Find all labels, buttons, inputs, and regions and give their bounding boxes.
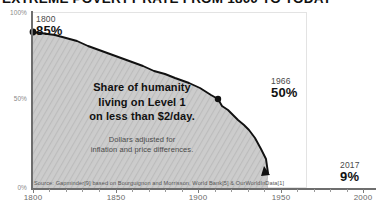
chart-annotation-main: Share of humanity living on Level 1 on l… xyxy=(52,80,232,124)
callout-1800-value: 85% xyxy=(36,24,63,38)
x-tick-minor xyxy=(149,189,150,192)
x-tick-label-1950: 1950 xyxy=(272,193,291,202)
callout-1800: 1800 85% xyxy=(36,14,63,38)
annotation-sub-line-1: Dollars adjusted for xyxy=(62,135,222,145)
y-tick-label-0: 0% xyxy=(3,184,27,191)
x-tick-minor xyxy=(347,189,348,192)
x-tick-minor xyxy=(66,189,67,192)
x-tick-minor xyxy=(49,189,50,192)
x-tick-minor xyxy=(215,189,216,192)
x-tick-minor xyxy=(132,189,133,192)
source-note: Source: Gapminder[9] based on Bourguigno… xyxy=(34,180,284,186)
y-tick-label-50: 50% xyxy=(3,95,27,102)
x-tick-label-1900: 1900 xyxy=(189,193,208,202)
x-tick-minor xyxy=(182,189,183,192)
annotation-line-2: living on Level 1 xyxy=(52,95,232,110)
x-tick-minor xyxy=(297,189,298,192)
x-tick-label-2000: 2000 xyxy=(354,193,373,202)
x-tick-label-1800: 1800 xyxy=(24,193,43,202)
x-tick-minor xyxy=(330,189,331,192)
callout-2017: 2017 9% xyxy=(340,160,360,184)
x-tick-minor xyxy=(99,189,100,192)
annotation-line-3: on less than $2/day. xyxy=(52,109,232,124)
callout-1966-value: 50% xyxy=(271,86,298,100)
chart-root: EXTREME POVERTY RATE FROM 1800 TO TODAY … xyxy=(0,0,378,211)
callout-2017-value: 9% xyxy=(340,170,360,184)
chart-annotation-sub: Dollars adjusted for inflation and price… xyxy=(62,135,222,155)
x-tick-minor xyxy=(231,189,232,192)
x-tick-minor xyxy=(82,189,83,192)
annotation-line-1: Share of humanity xyxy=(52,80,232,95)
x-tick-label-1850: 1850 xyxy=(107,193,126,202)
callout-1966: 1966 50% xyxy=(271,76,298,100)
y-tick-label-100: 100% xyxy=(3,9,27,16)
x-tick-minor xyxy=(264,189,265,192)
x-tick-minor xyxy=(248,189,249,192)
x-tick-minor xyxy=(314,189,315,192)
annotation-sub-line-2: inflation and price differences. xyxy=(62,145,222,155)
x-tick-minor xyxy=(165,189,166,192)
y-axis-line xyxy=(31,11,33,190)
